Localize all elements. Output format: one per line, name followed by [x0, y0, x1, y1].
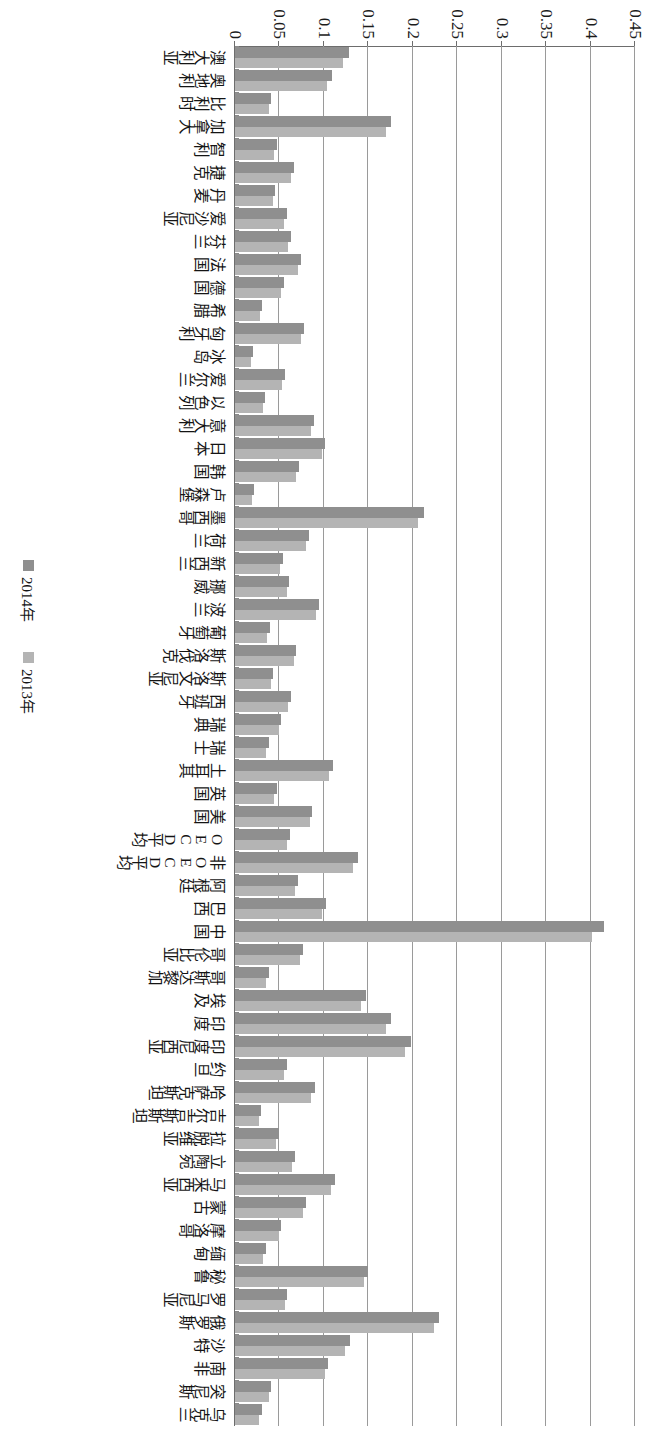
bar-group[interactable] [235, 874, 635, 897]
bar[interactable] [235, 737, 269, 747]
bar[interactable] [235, 656, 294, 666]
bar[interactable] [235, 1415, 259, 1425]
bar[interactable] [235, 507, 424, 517]
bar[interactable] [235, 875, 298, 885]
bar[interactable] [235, 1105, 261, 1115]
bar[interactable] [235, 1116, 259, 1126]
bar[interactable] [235, 1266, 368, 1276]
bar-group[interactable] [235, 828, 635, 851]
bar[interactable] [235, 794, 274, 804]
bar[interactable] [235, 1001, 361, 1011]
bar[interactable] [235, 587, 287, 597]
bar[interactable] [235, 1174, 335, 1184]
bar[interactable] [235, 806, 312, 816]
bar[interactable] [235, 530, 309, 540]
bar[interactable] [235, 93, 271, 103]
bar[interactable] [235, 449, 322, 459]
bar[interactable] [235, 150, 274, 160]
bar[interactable] [235, 173, 291, 183]
bar[interactable] [235, 702, 288, 712]
bar[interactable] [235, 1289, 287, 1299]
bar-group[interactable] [235, 552, 635, 575]
bar[interactable] [235, 725, 279, 735]
bar-group[interactable] [235, 414, 635, 437]
bar[interactable] [235, 1277, 364, 1287]
bar[interactable] [235, 1369, 325, 1379]
bar[interactable] [235, 81, 327, 91]
bar-group[interactable] [235, 1242, 635, 1265]
bar[interactable] [235, 139, 277, 149]
bar[interactable] [235, 932, 592, 942]
bar-group[interactable] [235, 46, 635, 69]
bar[interactable] [235, 196, 273, 206]
bar[interactable] [235, 1070, 284, 1080]
bar-group[interactable] [235, 1219, 635, 1242]
bar[interactable] [235, 898, 326, 908]
bar[interactable] [235, 1208, 303, 1218]
bar-group[interactable] [235, 805, 635, 828]
bar-group[interactable] [235, 322, 635, 345]
bar-group[interactable] [235, 621, 635, 644]
bar[interactable] [235, 852, 358, 862]
bar[interactable] [235, 357, 251, 367]
bar[interactable] [235, 541, 306, 551]
bar-group[interactable] [235, 1150, 635, 1173]
bar[interactable] [235, 185, 275, 195]
legend-item[interactable]: 2014年 [18, 560, 39, 622]
bar[interactable] [235, 863, 353, 873]
bar-group[interactable] [235, 207, 635, 230]
bar[interactable] [235, 1013, 391, 1023]
bar-group[interactable] [235, 713, 635, 736]
bar-group[interactable] [235, 966, 635, 989]
bar-group[interactable] [235, 943, 635, 966]
bar[interactable] [235, 162, 294, 172]
bar-group[interactable] [235, 391, 635, 414]
bar[interactable] [235, 47, 349, 57]
bar-group[interactable] [235, 529, 635, 552]
bar[interactable] [235, 1231, 279, 1241]
bar[interactable] [235, 1185, 331, 1195]
bar[interactable] [235, 645, 296, 655]
bar[interactable] [235, 1082, 315, 1092]
bar[interactable] [235, 1254, 263, 1264]
bar[interactable] [235, 70, 332, 80]
bar-group[interactable] [235, 575, 635, 598]
bar-group[interactable] [235, 1058, 635, 1081]
bar-group[interactable] [235, 1104, 635, 1127]
bar[interactable] [235, 691, 291, 701]
bar[interactable] [235, 909, 322, 919]
bar-group[interactable] [235, 161, 635, 184]
bar[interactable] [235, 829, 290, 839]
bar[interactable] [235, 955, 300, 965]
bar-group[interactable] [235, 115, 635, 138]
bar-group[interactable] [235, 253, 635, 276]
bar[interactable] [235, 208, 287, 218]
bar-group[interactable] [235, 1127, 635, 1150]
bar[interactable] [235, 1300, 285, 1310]
bar-group[interactable] [235, 276, 635, 299]
bar-group[interactable] [235, 506, 635, 529]
bar[interactable] [235, 921, 604, 931]
bar[interactable] [235, 495, 252, 505]
bar[interactable] [235, 518, 418, 528]
bar[interactable] [235, 564, 280, 574]
bar[interactable] [235, 380, 282, 390]
bar-group[interactable] [235, 1288, 635, 1311]
bar[interactable] [235, 679, 271, 689]
bar[interactable] [235, 1243, 266, 1253]
bar[interactable] [235, 116, 391, 126]
bar[interactable] [235, 760, 333, 770]
bar[interactable] [235, 277, 284, 287]
bar[interactable] [235, 1346, 345, 1356]
bar-group[interactable] [235, 920, 635, 943]
bar[interactable] [235, 415, 314, 425]
bar-group[interactable] [235, 1380, 635, 1403]
bar[interactable] [235, 748, 266, 758]
bar-group[interactable] [235, 69, 635, 92]
bar-group[interactable] [235, 897, 635, 920]
bar[interactable] [235, 1151, 295, 1161]
bar-group[interactable] [235, 782, 635, 805]
bar[interactable] [235, 610, 316, 620]
bar-group[interactable] [235, 759, 635, 782]
bar-group[interactable] [235, 598, 635, 621]
